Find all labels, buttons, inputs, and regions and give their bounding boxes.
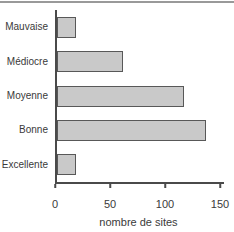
x-tick-label: 50 bbox=[104, 198, 116, 211]
bar-bonne bbox=[57, 120, 206, 141]
x-axis-title: nombre de sites bbox=[55, 216, 222, 229]
x-tick bbox=[219, 184, 221, 188]
x-tick-label: 150 bbox=[211, 198, 229, 211]
bar-row bbox=[57, 44, 222, 78]
category-label: Médiocre bbox=[0, 44, 48, 78]
bar-row bbox=[57, 10, 222, 44]
bar-moyenne bbox=[57, 86, 184, 107]
x-tick bbox=[164, 184, 166, 188]
x-tick bbox=[54, 184, 56, 188]
bars-container bbox=[57, 10, 222, 182]
bar-mauvaise bbox=[57, 17, 76, 38]
bar-row bbox=[57, 79, 222, 113]
x-tick bbox=[109, 184, 111, 188]
category-label: Mauvaise bbox=[0, 10, 48, 44]
x-tick-label: 100 bbox=[156, 198, 174, 211]
bar-chart-figure: MauvaiseMédiocreMoyenneBonneExcellente 0… bbox=[0, 0, 234, 232]
category-label: Bonne bbox=[0, 113, 48, 147]
x-axis-ticks bbox=[55, 184, 222, 189]
top-divider-rule bbox=[0, 1, 234, 3]
bar-row bbox=[57, 113, 222, 147]
bar-excellente bbox=[57, 154, 76, 175]
x-axis-tick-labels: 050100150 bbox=[55, 198, 222, 211]
y-axis-category-labels: MauvaiseMédiocreMoyenneBonneExcellente bbox=[0, 10, 48, 182]
category-label: Moyenne bbox=[0, 79, 48, 113]
bar-mediocre bbox=[57, 51, 123, 72]
bar-row bbox=[57, 148, 222, 182]
x-tick-label: 0 bbox=[52, 198, 58, 211]
category-label: Excellente bbox=[0, 148, 48, 182]
plot-area bbox=[55, 10, 224, 184]
